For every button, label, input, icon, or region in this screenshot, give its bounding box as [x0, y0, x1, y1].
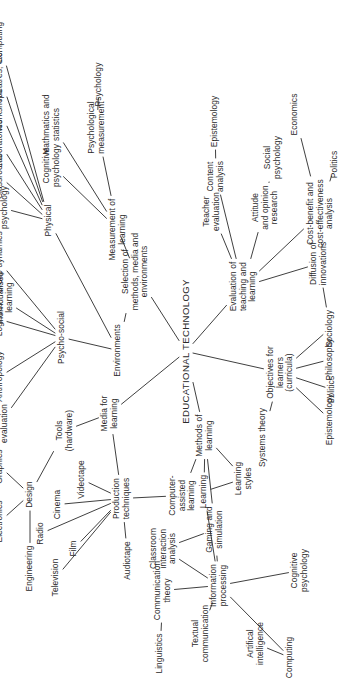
edge-objectives-for-learners-curricula--epistemology: [297, 388, 324, 413]
edge-educational-technology--selection-of-methods-media-and-environments: [152, 297, 180, 340]
edge-classroom-interaction-analysis--gaming-and-simulation: [180, 533, 204, 542]
node-radio: Radio: [36, 522, 46, 544]
node-textual-communication: Textual communication: [191, 604, 210, 662]
edge-diffusion-of-innovations--sociology: [323, 288, 326, 307]
node-film: Film: [69, 540, 79, 556]
edge-measurement-of-learning--cognitive-psychology: [64, 176, 107, 218]
node-computing: Computing: [285, 636, 295, 677]
node-linguistics: Linguistics: [155, 633, 165, 673]
edge-production-techniques--audiotape: [124, 522, 126, 538]
edge-evaluation-of-teaching-and-learning--attitude-and-opinion-research: [251, 232, 258, 258]
node-cognitive-psychology: Cognitive psychology: [290, 549, 309, 592]
edge-learning--learning-styles: [211, 482, 233, 489]
edge-educational-technology--media-for-learning: [122, 357, 180, 404]
node-cinema: Cinema: [53, 489, 63, 518]
node-anthropology: Anthropology: [0, 351, 5, 402]
edge-physical--classrooms: [7, 182, 42, 213]
node-epistemology: Epistemology: [210, 95, 220, 146]
edge-physical--social-psychology: [12, 210, 43, 218]
node-group-dynamics: Group dynamics: [0, 231, 5, 293]
node-media-for-learning: Media for learning: [100, 395, 119, 431]
edge-physical--workshops: [7, 126, 42, 205]
node-diffusion-of-innovations: Diffusion of innovations: [309, 241, 328, 284]
edge-educational-technology--evaluation-of-teaching-and-learning: [193, 305, 227, 343]
node-tools-hardware: Tools (hardware): [55, 409, 74, 451]
edge-evaluation-of-teaching-and-learning--content-analysis: [221, 195, 237, 259]
edge-evaluation-of-teaching-and-learning--teacher-evaluation: [221, 234, 231, 259]
edge-physical--laboratories: [7, 154, 42, 209]
node-environments: Environments: [113, 324, 123, 376]
node-cost-benefit-and-cost-effectiveness-analysis: Cost-benefit and cost-effectiveness anal…: [306, 179, 335, 248]
node-engineering: Engineering: [25, 545, 35, 591]
diagram-canvas: EDUCATIONAL TECHNOLOGYMedia for learning…: [0, 0, 350, 681]
node-philosophy: Philosophy: [325, 338, 335, 380]
edge-physical--theatres-etc: [7, 97, 43, 201]
node-systems-theory: Systems theory: [258, 407, 268, 466]
node-psycho-social: Psycho-social: [57, 311, 67, 364]
edge-information-processing--classroom-interaction-analysis: [180, 559, 208, 578]
node-design: Design: [25, 481, 35, 508]
edge-design--graphics: [7, 473, 23, 488]
node-economics: Economics: [290, 93, 300, 135]
node-illuminative-evaluation: Illuminative evaluation: [0, 401, 10, 444]
node-learning-styles: Learning styles: [234, 461, 253, 494]
edge-objectives-for-learners-curricula--sociology: [297, 334, 324, 357]
edge-objectives-for-learners-curricula--philosophy: [297, 361, 324, 368]
edge-environments--psycho-social: [69, 339, 111, 349]
node-artifical-intelligence: Artifical intelligence: [246, 621, 265, 664]
node-evaluation-of-teaching-and-learning: Evaluation of teaching and learning: [229, 261, 258, 311]
edge-psycho-social--independent-individualised-learning: [17, 308, 56, 333]
node-objectives-for-learners-curricula: Objectives for learners (curricula): [266, 346, 295, 399]
root-node-educational-technology: EDUCATIONAL TECHNOLOGY: [181, 279, 191, 424]
edge-production-techniques--computer-assisted-learning: [134, 496, 166, 498]
edge-information-processing--cognitive-psychology: [231, 572, 289, 583]
node-gaming-and-simulation: Gaming and simulation: [205, 506, 224, 553]
node-production-techniques: Production techniques: [112, 477, 131, 519]
node-information-processing: Information processing: [209, 564, 228, 607]
edge-evaluation-of-teaching-and-learning--cost-benefit-and-cost-effectiveness-analysis: [260, 229, 304, 271]
mind-map-stage: EDUCATIONAL TECHNOLOGYMedia for learning…: [0, 0, 350, 681]
edge-objectives-for-learners-curricula--politics: [297, 377, 326, 386]
edge-cost-benefit-and-cost-effectiveness-analysis--economics: [301, 138, 310, 176]
node-psychology: Psychology: [94, 62, 104, 106]
edge-physical--computing: [6, 66, 43, 202]
node-measurement-of-learning: Measurement of learning: [108, 198, 127, 260]
edge-computing--artifical-intelligence: [268, 648, 284, 654]
node-computing: Computing: [0, 21, 5, 62]
node-computer-assisted-learning: Computer- assisted learning: [168, 475, 197, 515]
edge-measurement-of-learning--psychological-measurement: [103, 157, 111, 196]
node-learning: Learning: [199, 474, 209, 507]
node-teacher-evaluation: Teacher evaluation: [202, 191, 221, 230]
edge-media-for-learning--production-techniques: [113, 434, 119, 474]
edge-production-techniques--videotape: [89, 482, 111, 492]
node-logistics: Logistics: [0, 302, 5, 335]
node-psychological-measurement: Psychological measurement: [87, 101, 106, 154]
edge-objectives-for-learners-curricula--systems-theory: [270, 402, 272, 411]
node-content-analysis: Content analysis: [206, 160, 225, 191]
node-methods-of-learning: Methods of learning: [195, 414, 214, 456]
edge-educational-technology--methods-of-learning: [193, 382, 200, 411]
node-electronics: Electronics: [0, 500, 5, 542]
node-audiotape: Audiotape: [123, 541, 133, 580]
node-mathmatics-and-statistics: Mathmatics and statistics: [42, 94, 61, 155]
edge-information-processing--communication-theory: [175, 586, 208, 589]
edge-production-techniques--cinema: [65, 499, 111, 503]
node-attitude-and-opinion-research: Attitude and opinion research: [251, 185, 280, 229]
edge-tools-hardware--design: [37, 451, 54, 481]
edge-methods-of-learning--learning-styles: [217, 448, 233, 466]
node-communication-theory: Communication theory: [153, 560, 172, 619]
node-graphics: Graphics: [0, 449, 5, 483]
edge-evaluation-of-teaching-and-learning--diffusion-of-innovations: [260, 266, 308, 281]
node-television: Television: [51, 558, 61, 596]
node-videotape: Videotape: [77, 460, 87, 498]
node-physical: Physical: [44, 204, 54, 236]
edge-selection-of-methods-media-and-environments--environments: [124, 313, 126, 321]
edge-media-for-learning--tools-hardware: [77, 417, 99, 425]
edge-methods-of-learning--computer-assisted-learning: [191, 459, 196, 472]
node-politics: Politics: [330, 150, 340, 177]
edge-educational-technology--objectives-for-learners-curricula: [193, 353, 264, 369]
node-social-psychology: Social psychology: [263, 136, 282, 179]
edge-design--electronics: [7, 500, 23, 514]
